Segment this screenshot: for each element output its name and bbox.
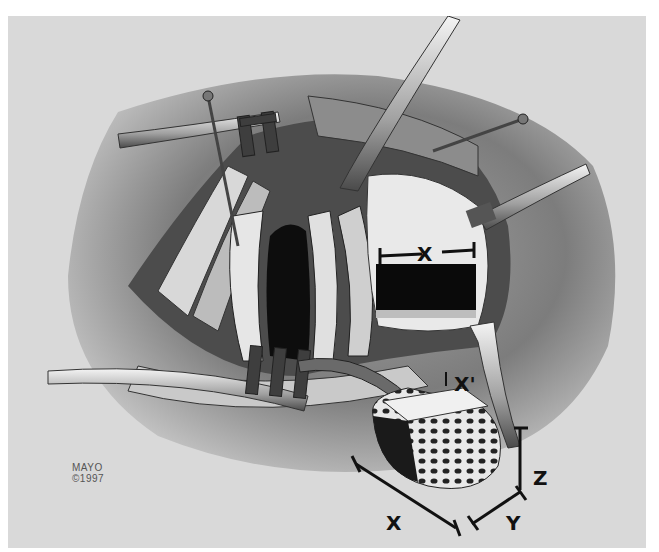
copyright-credit: MAYO ©1997 [72,462,104,484]
label-graft-y: Y [506,513,520,533]
label-graft-x: X [386,513,401,533]
credit-mayo: MAYO [72,462,104,473]
label-graft-z: Z [533,468,548,488]
credit-year: ©1997 [72,473,104,484]
illustration-panel: X X' X Y Z MAYO ©1997 [8,16,646,548]
label-defect-x-prime: X' [454,374,476,394]
graft-defect [376,264,476,310]
label-defect-x: X [417,244,432,264]
bone-graft-block [372,388,500,489]
spinal-canal [267,225,311,361]
